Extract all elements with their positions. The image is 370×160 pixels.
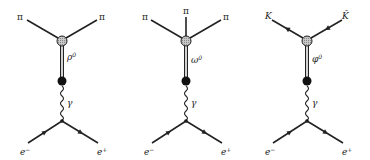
vmd-coupling-dot — [182, 77, 191, 86]
vmd-coupling-dot — [303, 77, 312, 86]
pion-line-left — [27, 20, 58, 38]
vmd-coupling-dot — [58, 77, 67, 86]
label-positron: e+ — [221, 146, 231, 157]
diagram-phi: K K̄ φ0 γ e− e+ — [264, 10, 352, 157]
resonance-blob — [302, 36, 312, 46]
diagram-rho: π π ρ0 γ e− e+ — [17, 12, 107, 157]
label-resonance: ρ0 — [66, 51, 76, 62]
arrow-kaon — [284, 25, 291, 32]
label-electron: e− — [265, 146, 275, 157]
resonance-blob — [57, 36, 67, 46]
pion-line-left — [151, 20, 182, 38]
label-pion-left: π — [17, 12, 23, 22]
resonance-blob — [181, 36, 191, 46]
photon-line — [306, 86, 309, 120]
label-pion-right: π — [99, 12, 105, 22]
label-photon: γ — [312, 98, 318, 108]
photon-line — [185, 86, 188, 120]
feynman-diagrams: π π ρ0 γ e− e+ π π π ω0 γ e− — [0, 0, 370, 160]
label-positron: e+ — [97, 146, 107, 157]
pion-line-right — [66, 20, 97, 38]
label-electron: e− — [144, 146, 154, 157]
label-pion-middle: π — [183, 6, 189, 16]
photon-line — [61, 86, 64, 120]
label-photon: γ — [67, 98, 73, 108]
label-antikaon: K̄ — [341, 10, 350, 21]
label-kaon: K — [264, 11, 273, 21]
label-electron: e− — [20, 146, 30, 157]
label-pion-right: π — [223, 12, 229, 22]
label-pion-left: π — [142, 12, 148, 22]
label-positron: e+ — [342, 146, 352, 157]
label-photon: γ — [191, 98, 197, 108]
diagram-omega: π π π ω0 γ e− e+ — [142, 6, 231, 157]
label-resonance: ω0 — [191, 54, 202, 65]
label-resonance: φ0 — [312, 53, 322, 64]
pion-line-right — [190, 20, 221, 38]
